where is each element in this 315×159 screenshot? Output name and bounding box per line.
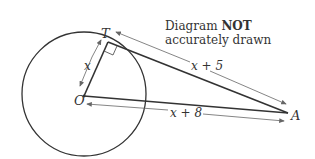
length-OA: x + 8 xyxy=(170,106,202,120)
note-line2: accurately drawn xyxy=(165,33,271,47)
tangent-diagram: T O A x x + 5 x + 8 Diagram NOT accurate… xyxy=(0,0,315,159)
arrow-OA-right xyxy=(203,114,284,121)
arrow-OT-up xyxy=(92,40,101,57)
label-O: O xyxy=(74,93,85,108)
length-OT: x xyxy=(84,59,91,73)
arrow-OA-left xyxy=(87,104,168,110)
label-A: A xyxy=(290,108,300,123)
note-line1: Diagram NOT xyxy=(165,19,252,33)
tangent-TA xyxy=(108,42,288,113)
label-T: T xyxy=(101,26,111,41)
length-TA: x + 5 xyxy=(191,59,223,73)
